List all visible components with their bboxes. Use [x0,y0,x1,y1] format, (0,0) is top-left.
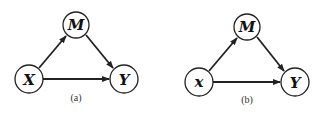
node-x: x [185,68,213,96]
caption-a: (a) [70,92,81,104]
node-label-Y: Y [290,74,302,92]
node-Y: Y [110,65,138,93]
edge-M-to-Y [86,35,113,68]
node-label-Y: Y [119,71,131,89]
node-label-x: x [194,73,205,91]
node-label-X: X [22,71,36,89]
node-Y: Y [281,68,309,96]
caption-b: (b) [241,94,253,106]
mediation-diagrams: X M Y (a) x M Y (b) [0,0,330,114]
node-M: M [234,14,260,40]
edge-M-to-Y [257,37,284,71]
node-M: M [63,12,89,38]
node-label-M: M [67,16,85,34]
diagram-b: x M Y (b) [185,14,309,106]
edge-x-to-M [209,38,237,71]
node-X: X [15,65,43,93]
diagram-a: X M Y (a) [15,12,138,104]
edge-X-to-M [39,36,66,68]
node-label-M: M [238,18,256,36]
